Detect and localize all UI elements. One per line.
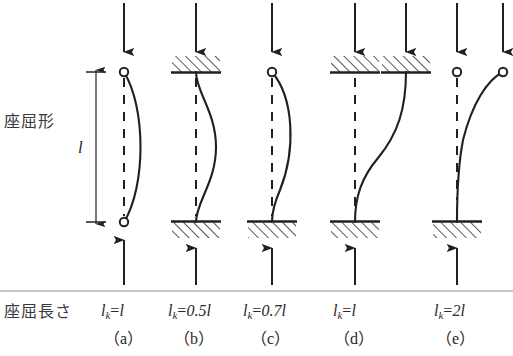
column-case-a [120,3,141,285]
dimension-label-l: l [78,139,83,156]
lk-value-b: 0.5l [186,302,210,319]
case-label-d: （d） [334,331,374,347]
hatch-block-top-d-swayed [382,56,430,72]
hatch-block-bottom-e [433,222,481,238]
lk-formula-a: lk=l [101,303,124,321]
pin-support-bottom-a [120,218,128,226]
hatch-block-bottom-c [248,222,296,238]
fixed-support-bottom-c [247,222,297,239]
lk-value-c: 0.7l [261,302,285,319]
fixed-support-top-b [171,56,221,73]
hatch-block-top-d-original [331,56,379,72]
lk-formula-e: lk=2l [434,303,465,321]
lk-value-e: 2l [452,302,464,319]
case-label-b: （b） [174,331,214,347]
column-case-c [247,3,297,285]
free-end-marker-e-original [453,68,461,76]
pin-support-top-c [268,68,276,76]
lk-formula-c: lk=0.7l [243,303,286,321]
hatch-block-bottom-b [172,222,220,238]
fixed-support-bottom-b [171,222,221,239]
free-end-marker-e-swayed [499,68,507,76]
row-label-buckling-length: 座屈長さ [4,304,72,320]
fixed-support-bottom-e [432,222,482,239]
case-label-e: （e） [436,331,475,347]
column-case-d [330,3,431,285]
lk-formula-d: lk=l [333,303,356,321]
fixed-support-bottom-d [330,222,380,239]
case-label-c: （c） [251,331,290,347]
hatch-block-top-b [172,56,220,72]
lk-value-a: l [119,302,123,319]
buckled-shape-d [355,72,406,222]
fixed-support-top-d-swayed [381,56,431,73]
fixed-support-top-d-original [330,56,380,73]
buckled-shape-b [196,72,216,222]
buckled-shape-e [457,72,503,222]
case-label-a: （a） [104,331,143,347]
buckled-shape-a [124,72,141,222]
row-label-buckling-shape: 座屈形 [4,114,55,130]
column-case-b [171,3,221,285]
length-dimension [86,70,106,224]
lk-formula-b: lk=0.5l [168,303,211,321]
lk-value-d: l [351,302,355,319]
column-case-e [432,3,507,285]
pin-support-top-a [120,68,128,76]
hatch-block-bottom-d [331,222,379,238]
buckled-shape-c [272,72,290,222]
